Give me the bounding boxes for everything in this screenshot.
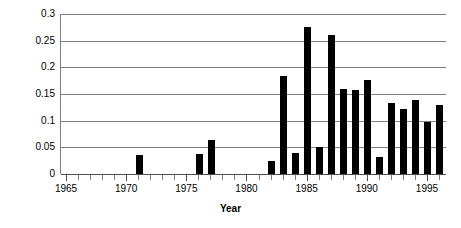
x-axis-tick xyxy=(403,175,404,180)
bar xyxy=(328,35,335,174)
x-axis-tick xyxy=(210,175,211,180)
x-axis-tick xyxy=(162,175,163,180)
x-axis-tick xyxy=(90,175,91,180)
x-axis-tick xyxy=(355,175,356,180)
gridline xyxy=(61,67,446,68)
x-axis-tick xyxy=(198,175,199,180)
x-axis-tick xyxy=(271,175,272,180)
x-axis-ticks xyxy=(60,175,446,181)
y-axis-tick-label: 0.25 xyxy=(20,36,55,46)
x-axis-tick xyxy=(138,175,139,180)
x-axis-tick xyxy=(439,175,440,180)
bar xyxy=(436,105,443,174)
bar xyxy=(400,109,407,174)
bar xyxy=(280,76,287,174)
y-axis-tick-label: 0 xyxy=(20,169,55,179)
bar xyxy=(424,122,431,174)
bar xyxy=(316,147,323,174)
x-axis-title: Year xyxy=(0,203,461,215)
x-axis-tick xyxy=(78,175,79,180)
x-axis-tick xyxy=(391,175,392,180)
x-axis-tick-labels: 1965197019751980198519901995 xyxy=(0,183,461,197)
bar xyxy=(388,103,395,174)
x-axis-tick-label: 1990 xyxy=(337,183,397,195)
bar xyxy=(352,90,359,174)
bar xyxy=(208,140,215,174)
x-axis-tick xyxy=(186,175,187,181)
y-axis-tick-label: 0.15 xyxy=(20,89,55,99)
gridline xyxy=(61,94,446,95)
x-axis-tick xyxy=(343,175,344,180)
x-axis-tick-label: 1980 xyxy=(216,183,276,195)
x-axis-tick xyxy=(307,175,308,181)
bar xyxy=(196,154,203,174)
gridline xyxy=(61,14,446,15)
x-axis-tick-label: 1995 xyxy=(397,183,457,195)
x-axis-tick xyxy=(150,175,151,180)
x-axis-tick xyxy=(379,175,380,180)
x-axis-tick xyxy=(295,175,296,180)
x-axis-tick-label: 1985 xyxy=(277,183,337,195)
x-axis-tick-label: 1965 xyxy=(36,183,96,195)
x-axis-tick-label: 1970 xyxy=(96,183,156,195)
x-axis-tick xyxy=(234,175,235,180)
x-axis-tick xyxy=(283,175,284,180)
y-axis-tick-label: 0.1 xyxy=(20,116,55,126)
gridline xyxy=(61,41,446,42)
bar xyxy=(136,155,143,174)
bar xyxy=(412,100,419,174)
x-axis-tick xyxy=(427,175,428,181)
x-axis-tick xyxy=(246,175,247,181)
bar xyxy=(304,27,311,174)
y-axis-tick-label: 0.2 xyxy=(20,62,55,72)
plot-area xyxy=(60,14,446,174)
x-axis-tick xyxy=(415,175,416,180)
x-axis-tick xyxy=(222,175,223,180)
x-axis-tick xyxy=(319,175,320,180)
bar xyxy=(376,157,383,174)
bar xyxy=(292,153,299,174)
x-axis-tick xyxy=(126,175,127,181)
x-axis-tick xyxy=(259,175,260,180)
y-axis-tick-label: 0.3 xyxy=(20,9,55,19)
x-axis-tick xyxy=(174,175,175,180)
bar-chart: Fraction 00.050.10.150.20.250.3 19651970… xyxy=(0,0,461,228)
bar xyxy=(364,80,371,174)
bar xyxy=(340,89,347,174)
x-axis-tick xyxy=(114,175,115,180)
x-axis-tick xyxy=(102,175,103,180)
x-axis-tick-label: 1975 xyxy=(156,183,216,195)
x-axis-tick xyxy=(367,175,368,181)
y-axis-tick-label: 0.05 xyxy=(20,142,55,152)
x-axis-tick xyxy=(331,175,332,180)
bar xyxy=(268,161,275,174)
x-axis-tick xyxy=(66,175,67,181)
